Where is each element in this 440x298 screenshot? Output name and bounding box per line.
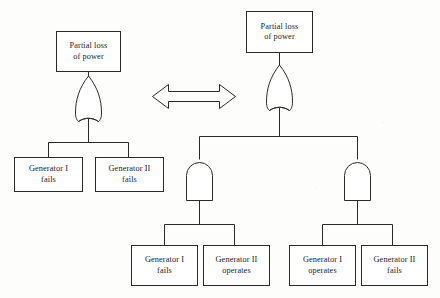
fault-tree-diagram: Partial loss of power Generator I fails …	[0, 0, 440, 298]
right-leaf-box-4	[362, 246, 428, 286]
right-leaf-box-2	[204, 246, 270, 286]
right-leaf-box-3	[290, 246, 356, 286]
left-input-box-2	[96, 158, 164, 192]
equivalence-arrow-icon	[153, 85, 236, 109]
left-top-event-box	[57, 32, 121, 72]
left-input-box-1	[15, 158, 83, 192]
fault-tree-canvas	[0, 0, 440, 298]
right-top-event-box	[247, 12, 313, 53]
right-and-gate-2	[345, 163, 371, 201]
right-leaf-box-1	[132, 246, 198, 286]
left-or-gate	[76, 76, 102, 122]
right-or-gate	[267, 65, 293, 111]
right-and-gate-1	[187, 163, 213, 201]
